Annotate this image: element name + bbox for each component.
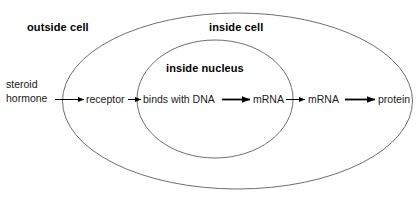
node-steroid-hormone-line1: steroid: [6, 77, 47, 91]
node-steroid-hormone-line2: hormone: [6, 91, 47, 105]
label-outside-cell: outside cell: [27, 21, 89, 33]
node-receptor: receptor: [86, 93, 125, 106]
node-mrna-nucleus: mRNA: [253, 93, 284, 106]
steroid-hormone-pathway-diagram: outside cell inside cell inside nucleus …: [0, 0, 417, 198]
node-protein: protein: [378, 93, 410, 106]
label-inside-cell: inside cell: [209, 21, 263, 33]
node-mrna-cytoplasm: mRNA: [308, 93, 339, 106]
node-binds-with-dna: binds with DNA: [143, 93, 215, 106]
label-inside-nucleus: inside nucleus: [166, 62, 244, 74]
node-steroid-hormone: steroid hormone: [6, 77, 47, 105]
